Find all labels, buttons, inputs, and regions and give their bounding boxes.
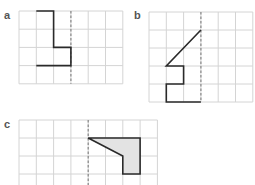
panel-a-grid (18, 10, 124, 85)
panel-b-label: b (134, 9, 141, 21)
panel-b-grid (148, 11, 254, 103)
panel-c-grid (18, 119, 158, 185)
panel-c-label: c (4, 118, 10, 130)
panel-a-label: a (4, 9, 10, 21)
